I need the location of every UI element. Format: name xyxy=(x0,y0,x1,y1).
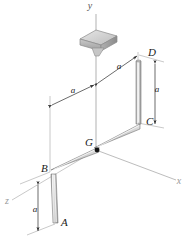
dimension-label-a-horizontal-left: a xyxy=(71,85,76,95)
mechanics-figure: A B C D G a a a a y x z xyxy=(0,0,191,244)
point-label-G: G xyxy=(85,136,93,148)
point-label-D: D xyxy=(147,46,156,58)
ext-line-A xyxy=(27,224,55,235)
rod-segment-AB xyxy=(51,174,58,223)
dimension-label-a-vertical-right: a xyxy=(155,84,160,94)
bearing-block xyxy=(80,30,117,56)
rod-segment-CD xyxy=(136,60,141,124)
dimension-a-vertical-left xyxy=(20,172,55,235)
axis-label-x: x xyxy=(176,175,182,186)
junction-point-G xyxy=(95,148,100,153)
figure-canvas: A B C D G a a a a y x z xyxy=(0,0,191,244)
x-axis-line xyxy=(96,150,176,180)
dimension-a-horizontal-left xyxy=(50,85,94,172)
bearing-block-collar xyxy=(92,48,104,56)
axis-label-y: y xyxy=(87,0,93,11)
rod-segment-BG xyxy=(51,147,99,170)
axis-label-z: z xyxy=(4,195,9,206)
dimension-label-a-horizontal-right: a xyxy=(117,61,122,71)
point-label-A: A xyxy=(60,216,68,228)
point-label-B: B xyxy=(41,162,48,174)
point-label-C: C xyxy=(146,115,154,127)
dimension-label-a-vertical-left: a xyxy=(33,204,38,214)
rod-segment-GC xyxy=(94,124,140,148)
